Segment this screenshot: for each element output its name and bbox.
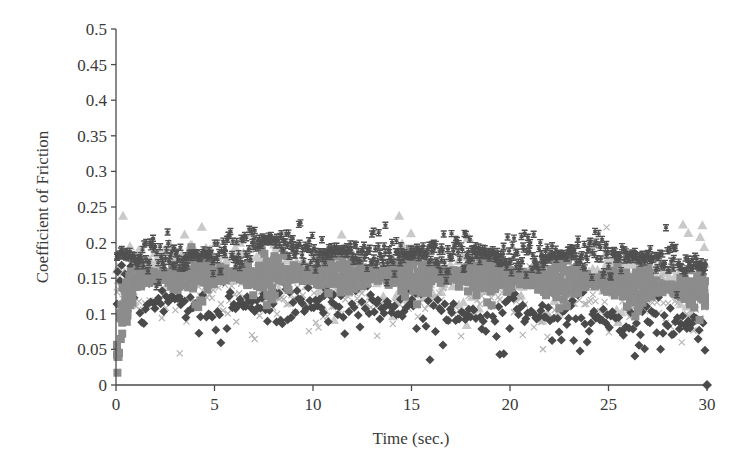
- y-axis-title: Coefficient of Friction: [33, 130, 52, 283]
- data-point: [306, 328, 312, 334]
- data-point: [438, 340, 447, 349]
- data-point: [340, 329, 349, 338]
- y-tick-label: 0.25: [77, 198, 107, 217]
- data-point: [449, 231, 455, 237]
- data-point: [678, 220, 688, 229]
- data-point: [690, 304, 698, 312]
- data-point: [701, 293, 709, 301]
- data-point: [177, 350, 183, 356]
- data-point: [194, 329, 203, 338]
- data-point: [604, 224, 610, 230]
- data-point: [501, 243, 507, 249]
- data-point: [583, 337, 592, 346]
- data-point: [271, 292, 279, 300]
- data-point: [249, 332, 255, 338]
- data-point: [511, 235, 517, 241]
- data-point: [694, 334, 703, 343]
- data-point: [537, 240, 543, 246]
- data-point: [165, 229, 171, 235]
- data-point: [575, 236, 581, 242]
- y-tick-label: 0.4: [86, 91, 108, 110]
- data-point: [683, 228, 693, 237]
- data-point: [679, 339, 685, 345]
- y-tick-label: 0.05: [77, 340, 107, 359]
- data-point: [198, 298, 206, 306]
- x-tick-label: 25: [600, 395, 617, 414]
- data-point: [252, 336, 258, 342]
- data-point: [555, 327, 564, 336]
- data-point: [249, 291, 257, 299]
- data-point: [337, 229, 347, 238]
- data-point: [646, 269, 654, 277]
- x-tick-label: 20: [502, 395, 519, 414]
- data-point: [531, 231, 537, 237]
- data-point: [630, 351, 639, 360]
- data-point: [374, 333, 380, 339]
- data-point: [701, 302, 709, 310]
- data-point: [394, 211, 404, 220]
- data-point: [659, 329, 668, 338]
- data-point: [701, 277, 709, 285]
- x-tick-label: 0: [112, 395, 121, 414]
- data-point: [406, 228, 416, 237]
- data-point: [209, 295, 215, 301]
- data-point: [555, 304, 563, 312]
- data-point: [696, 316, 704, 324]
- data-point: [701, 346, 710, 355]
- x-axis-title: Time (sec.): [373, 429, 450, 448]
- data-point: [660, 311, 669, 320]
- y-tick-label: 0.35: [77, 127, 107, 146]
- data-point: [540, 346, 546, 352]
- data-point: [505, 324, 514, 333]
- data-point: [531, 324, 537, 330]
- y-tick-label: 0.45: [77, 56, 107, 75]
- data-point: [563, 302, 571, 310]
- data-point: [425, 355, 434, 364]
- data-point: [285, 286, 293, 294]
- data-point: [412, 324, 421, 333]
- data-point: [505, 234, 511, 240]
- data-point: [172, 307, 178, 313]
- data-point: [602, 299, 608, 305]
- x-tick-label: 10: [305, 395, 322, 414]
- data-point: [356, 323, 365, 332]
- data-point: [569, 336, 578, 345]
- data-point: [656, 345, 665, 354]
- data-point: [325, 289, 333, 297]
- data-point: [697, 220, 707, 229]
- data-point: [274, 311, 280, 317]
- y-tick-label: 0.15: [77, 269, 107, 288]
- data-point: [472, 291, 480, 299]
- data-point: [506, 248, 512, 254]
- data-point: [666, 304, 675, 313]
- data-point: [390, 321, 396, 327]
- x-tick-label: 30: [699, 395, 716, 414]
- data-point: [263, 317, 272, 326]
- data-point: [118, 211, 128, 220]
- data-point: [509, 242, 515, 248]
- data-point: [118, 330, 126, 338]
- data-point: [663, 225, 669, 231]
- data-point: [695, 232, 705, 241]
- data-point: [222, 324, 231, 333]
- data-point: [128, 297, 136, 305]
- data-point: [441, 231, 447, 237]
- data-point: [233, 319, 239, 325]
- data-point: [592, 298, 598, 304]
- data-point: [180, 230, 190, 239]
- data-point: [488, 301, 496, 309]
- scatter-chart: 00.050.10.150.20.250.30.350.40.450.5 051…: [0, 0, 746, 474]
- data-point: [257, 313, 263, 319]
- data-point: [382, 222, 388, 228]
- data-point: [124, 311, 132, 319]
- data-point: [260, 250, 268, 258]
- data-point: [584, 257, 590, 263]
- y-tick-label: 0.3: [86, 162, 107, 181]
- x-tick-label: 15: [403, 395, 420, 414]
- data-point: [401, 293, 409, 301]
- y-tick-label: 0.2: [86, 234, 107, 253]
- data-point: [218, 301, 224, 307]
- data-point: [431, 327, 440, 336]
- y-tick-label: 0: [99, 376, 108, 395]
- x-axis-ticks: 051015202530: [112, 385, 716, 414]
